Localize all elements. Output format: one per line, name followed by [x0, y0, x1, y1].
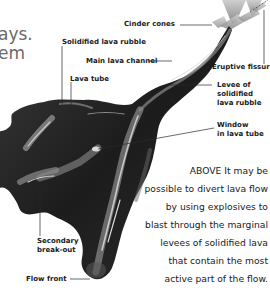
cinder-cones-icon [212, 0, 266, 30]
caption-line-3: by using explosives to [144, 198, 268, 216]
label-secondary-line-1: Secondary [37, 237, 78, 246]
caption-line-4: blast through the marginal [144, 216, 268, 234]
label-secondary-breakout: Secondary break-out [37, 237, 78, 255]
label-levee-line-1: Levee of [217, 81, 261, 90]
label-lava-tube: Lava tube [70, 75, 109, 84]
caption-line-6: that contain the most [144, 252, 268, 270]
label-solidified-lava-rubble: Solidified lava rubble [62, 38, 146, 47]
label-levee-line-3: lava rubble [217, 99, 261, 108]
label-flow-front: Flow front [26, 275, 67, 284]
caption-line-1: ABOVE It may be [144, 162, 268, 180]
label-window-line-1: Window [217, 121, 264, 130]
caption-line-7: active part of the flow. [144, 270, 268, 288]
caption-line-2: possible to divert lava flow [144, 180, 268, 198]
label-eruptive-fissure: Eruptive fissure [212, 63, 270, 72]
label-secondary-line-2: break-out [37, 246, 78, 255]
caption-line-5: levees of solidified lava [144, 234, 268, 252]
label-window: Window in lava tube [217, 121, 264, 139]
lava-flow-diagram: ays. em [0, 0, 270, 290]
label-levee-line-2: solidified [217, 90, 261, 99]
label-levee: Levee of solidified lava rubble [217, 81, 261, 108]
label-window-line-2: in lava tube [217, 130, 264, 139]
label-cinder-cones: Cinder cones [124, 20, 175, 29]
caption: ABOVE It may be possible to divert lava … [144, 162, 268, 288]
label-main-lava-channel: Main lava channel [86, 57, 157, 66]
